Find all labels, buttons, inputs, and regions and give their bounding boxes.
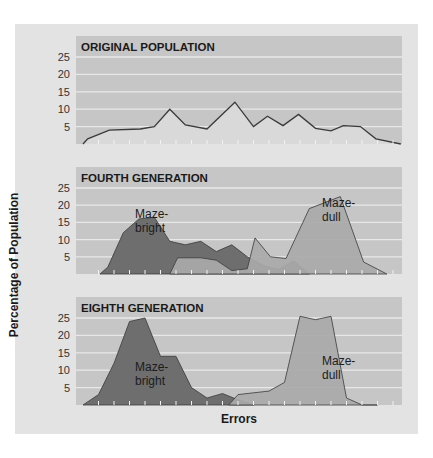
panel-title: EIGHTH GENERATION: [81, 302, 203, 314]
generation-chart: 510152025ORIGINAL POPULATION510152025FOU…: [0, 0, 433, 458]
maze-dull-label: Maze-: [322, 196, 355, 210]
maze-bright-label: bright: [135, 374, 166, 388]
x-axis-label: Errors: [76, 412, 402, 426]
panel-1: 510152025FOURTH GENERATIONMaze-brightMaz…: [58, 167, 402, 274]
panel-title: ORIGINAL POPULATION: [81, 41, 215, 53]
maze-dull-label: Maze-: [322, 354, 355, 368]
y-tick-label: 5: [64, 382, 70, 394]
y-tick-label: 15: [58, 86, 70, 98]
y-tick-label: 5: [64, 251, 70, 263]
y-tick-label: 20: [58, 199, 70, 211]
maze-bright-label: Maze-: [135, 360, 168, 374]
panel-2: 510152025EIGHTH GENERATIONMaze-brightMaz…: [58, 297, 402, 405]
maze-bright-label: bright: [135, 221, 166, 235]
maze-dull-label: dull: [322, 210, 341, 224]
y-tick-label: 25: [58, 312, 70, 324]
y-tick-label: 10: [58, 364, 70, 376]
y-axis-label-text: Percentage of Population: [7, 193, 21, 338]
y-tick-label: 25: [58, 51, 70, 63]
maze-bright-label: Maze-: [135, 207, 168, 221]
y-tick-label: 10: [58, 234, 70, 246]
y-tick-label: 15: [58, 216, 70, 228]
y-tick-label: 10: [58, 103, 70, 115]
maze-dull-label: dull: [322, 368, 341, 382]
y-tick-label: 15: [58, 347, 70, 359]
panel-title: FOURTH GENERATION: [81, 172, 208, 184]
y-tick-label: 20: [58, 329, 70, 341]
y-tick-label: 20: [58, 68, 70, 80]
panel-0: 510152025ORIGINAL POPULATION: [58, 36, 402, 144]
y-tick-label: 5: [64, 121, 70, 133]
y-tick-label: 25: [58, 182, 70, 194]
y-axis-label: Percentage of Population: [2, 120, 26, 410]
